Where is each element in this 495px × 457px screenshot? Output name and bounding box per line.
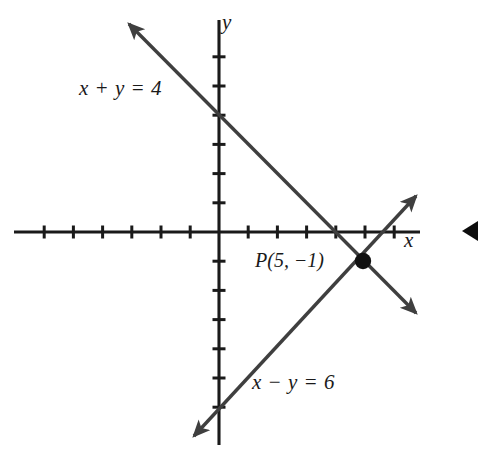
line-1-equation-label: x + y = 4	[79, 78, 162, 99]
x-axis-label: x	[404, 230, 413, 251]
intersection-point-label: P(5, −1)	[255, 250, 324, 270]
y-axis-label: y	[222, 12, 231, 33]
graph-canvas	[0, 0, 495, 457]
pointer-triangle-icon	[462, 221, 478, 241]
intersection-point-dot	[355, 253, 371, 269]
coordinate-graph-figure: x + y = 4 x − y = 6 P(5, −1) x y	[0, 0, 495, 457]
line-2-equation-label: x − y = 6	[252, 372, 335, 393]
